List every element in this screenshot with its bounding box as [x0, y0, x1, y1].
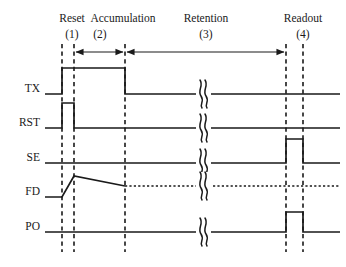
phase-label-reset: Reset [59, 12, 85, 24]
phase-number-accumulation: (2) [93, 28, 107, 41]
signal-label-po: PO [25, 220, 40, 232]
phase-header-group: Reset (1) Accumulation (2) Retention (3)… [59, 12, 323, 41]
waveform-se-path [45, 139, 340, 163]
waveform-fd-path [45, 176, 125, 197]
phase-number-reset: (1) [65, 28, 79, 41]
timing-diagram-canvas: Reset (1) Accumulation (2) Retention (3)… [0, 0, 346, 267]
waveform-po [45, 212, 340, 232]
signal-label-group: TX RST SE FD PO [19, 82, 41, 232]
signal-label-se: SE [27, 151, 40, 163]
signal-label-fd: FD [25, 185, 40, 197]
time-boundary-lines [62, 44, 303, 252]
signal-label-tx: TX [25, 82, 41, 94]
waveform-rst-path [45, 103, 340, 128]
timing-diagram-figure: Reset (1) Accumulation (2) Retention (3)… [0, 0, 346, 267]
waveform-po-path [45, 212, 340, 232]
waveform-break-group [196, 80, 211, 246]
phase-number-readout: (4) [296, 28, 310, 41]
phase-label-readout: Readout [284, 12, 323, 24]
phase-label-accumulation: Accumulation [90, 12, 155, 24]
phase-label-retention: Retention [184, 12, 229, 24]
signal-label-rst: RST [19, 116, 40, 128]
waveform-fd [45, 176, 340, 197]
waveform-rst [45, 103, 340, 128]
phase-number-retention: (3) [199, 28, 213, 41]
waveform-tx-path [45, 68, 340, 94]
waveform-tx [45, 68, 340, 94]
waveform-se [45, 139, 340, 163]
